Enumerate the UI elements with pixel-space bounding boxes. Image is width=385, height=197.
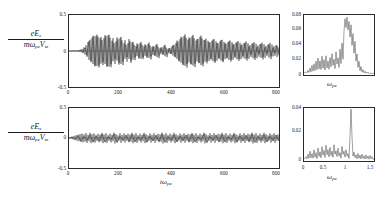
panel-ez-timeseries (68, 14, 280, 88)
ez-xtick-600: 600 (216, 89, 232, 95)
ez-xtick-400: 400 (163, 89, 179, 95)
ex-xtick-800: 800 (268, 170, 284, 176)
ex-xtick-400: 400 (163, 170, 179, 176)
ez-xtick-800: 800 (268, 89, 284, 95)
ez-timeseries-curve (69, 15, 279, 87)
exspec-xtick-15: 1.5 (362, 164, 378, 170)
exspec-xaxis-label: ωpe (327, 173, 337, 181)
panel-ex-timeseries (68, 107, 280, 169)
ezspec-ytick-004: 0.04 (283, 40, 301, 46)
ez-ytick-mid: 0 (48, 48, 66, 54)
ylabel-ez-numerator: eEz (8, 30, 64, 39)
panel-ez-spectrum (303, 14, 375, 76)
exspec-xtick-05: 0.5 (315, 164, 331, 170)
ex-xaxis-label: tωpe (160, 178, 172, 186)
ex-spectrum-curve (304, 108, 374, 161)
ylabel-ex-numerator: eEx (8, 123, 64, 132)
ex-xtick-600: 600 (216, 170, 232, 176)
ezspec-ytick-008: 0.08 (283, 11, 301, 17)
exspec-ytick-004: 0.04 (283, 104, 301, 110)
ex-xtick-0: 0 (62, 170, 74, 176)
ez-spectrum-curve (304, 15, 374, 75)
exspec-ytick-0: 0 (287, 156, 301, 162)
exspec-xtick-1: 1 (339, 164, 351, 170)
ez-xtick-200: 200 (110, 89, 126, 95)
ezspec-xaxis-label: ωpe (327, 80, 337, 88)
ez-xtick-0: 0 (62, 89, 74, 95)
exspec-xtick-0: 0 (297, 164, 309, 170)
ex-xtick-200: 200 (110, 170, 126, 176)
ezspec-ytick-006: 0.06 (283, 25, 301, 31)
exspec-ytick-002: 0.02 (283, 127, 301, 133)
ezspec-ytick-002: 0.02 (283, 55, 301, 61)
ex-ytick-mid: 0 (48, 134, 66, 140)
ezspec-ytick-0: 0 (287, 71, 301, 77)
ylabel-ez: eEz mωpeVte (8, 30, 64, 50)
ex-timeseries-curve (69, 108, 279, 168)
figure-root: eEz mωpeVte 0.5 0 -0.5 0 200 400 600 800… (0, 0, 385, 197)
ez-ytick-top: 0.5 (48, 11, 66, 17)
ex-ytick-top: 0.5 (48, 104, 66, 110)
panel-ex-spectrum (303, 107, 375, 162)
